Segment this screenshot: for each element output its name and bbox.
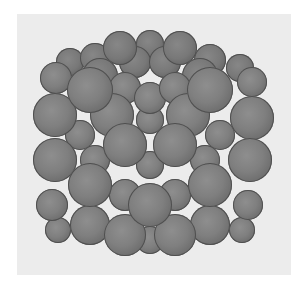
sphere-atom [153, 123, 197, 167]
sphere-atom [229, 217, 255, 243]
sphere-atom [67, 67, 113, 113]
sphere-atom [190, 205, 230, 245]
sphere-atom [36, 189, 68, 221]
sphere-atom [188, 163, 232, 207]
sphere-atom [228, 138, 272, 182]
sphere-atom [68, 163, 112, 207]
sphere-cluster [0, 0, 299, 285]
sphere-atom [230, 96, 274, 140]
sphere-atom [233, 190, 263, 220]
sphere-atom [237, 67, 267, 97]
sphere-atom [103, 123, 147, 167]
sphere-atom [45, 217, 71, 243]
sphere-atom [187, 67, 233, 113]
sphere-atom [128, 183, 172, 227]
